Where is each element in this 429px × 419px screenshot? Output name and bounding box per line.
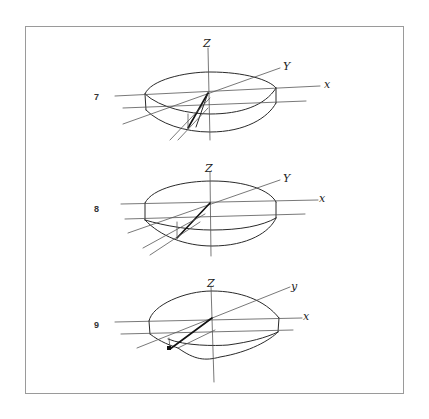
x-axis-label-9: x: [303, 310, 310, 323]
figure-8-sketch: x Z Y: [121, 162, 326, 256]
z-axis-label-8: Z: [204, 162, 213, 175]
z-axis-label-9: Z: [206, 277, 215, 290]
diagram-canvas: x Z Y x Z Y: [0, 0, 429, 419]
y-axis-label-7: Y: [283, 60, 292, 73]
x-axis-label-7: x: [324, 78, 331, 91]
z-axis-label-7: Z: [202, 37, 211, 50]
x-axis-label-8: x: [319, 192, 326, 205]
figure-7-sketch: x Z Y: [115, 37, 331, 140]
y-axis-label-8: Y: [283, 172, 292, 185]
vector-tip-marker-9: [167, 346, 171, 350]
figure-9-sketch: x Z y: [115, 277, 310, 382]
y-axis-label-9: y: [290, 280, 298, 293]
